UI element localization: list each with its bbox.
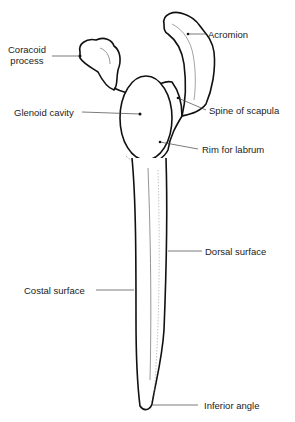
label-coracoid-process: Coracoid process <box>4 44 50 66</box>
label-glenoid-cavity: Glenoid cavity <box>14 107 74 118</box>
acromion-shape <box>164 12 215 116</box>
label-costal-surface: Costal surface <box>24 285 85 296</box>
glenoid-cavity-shape <box>120 76 172 160</box>
label-rim-for-labrum: Rim for labrum <box>202 144 264 155</box>
label-acromion: Acromion <box>208 29 248 40</box>
label-dorsal-surface: Dorsal surface <box>205 246 266 257</box>
label-spine-of-scapula: Spine of scapula <box>209 105 279 116</box>
label-coracoid-line2: process <box>4 55 50 66</box>
label-coracoid-line1: Coracoid <box>4 44 50 55</box>
coracoid-process-shape <box>80 38 120 90</box>
label-inferior-angle: Inferior angle <box>204 400 259 411</box>
scapula-blade-shape <box>132 158 167 410</box>
